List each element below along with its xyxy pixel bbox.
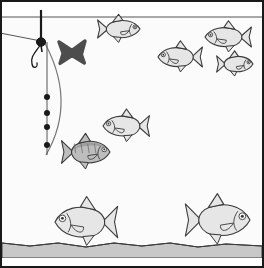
split-shot-weight [44, 142, 50, 148]
fish-pupil [248, 61, 250, 63]
below-sediment-band [2, 258, 262, 266]
scene-canvas [0, 0, 264, 268]
fishing-diagram [0, 0, 264, 268]
split-shot-weight [44, 124, 50, 130]
fish-pupil [103, 148, 105, 150]
float-stem [41, 45, 42, 52]
fish-pupil [162, 54, 164, 56]
fish-pupil [108, 123, 110, 125]
fish-pupil [134, 26, 136, 28]
fish-pupil [61, 217, 64, 220]
split-shot-weight [44, 94, 50, 100]
fish-pupil [241, 215, 244, 218]
fish-pupil [210, 34, 212, 36]
split-shot-weight [44, 110, 50, 116]
